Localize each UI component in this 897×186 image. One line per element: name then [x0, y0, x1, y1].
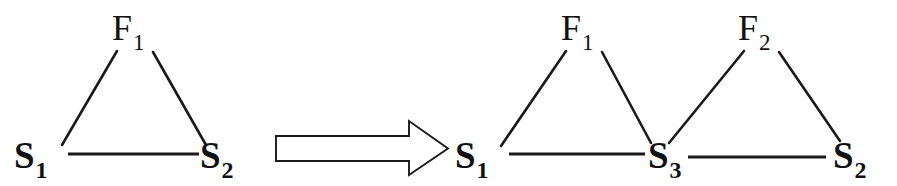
node-label-right-s1: S1: [455, 135, 489, 183]
edge-right-s3-f2: [669, 51, 744, 143]
edge-right-f1-s3: [602, 52, 651, 143]
figure-canvas: F1 S1 S2: [0, 0, 897, 186]
edge-right-f2-s2: [779, 52, 840, 141]
node-label-right-s3: S3: [648, 135, 682, 183]
arrow-right-icon: [276, 121, 448, 175]
edge-left-s1-f1: [62, 51, 117, 145]
node-label-left-f1: F1: [112, 8, 145, 55]
node-label-left-s2: S2: [200, 135, 234, 183]
left-triangle-graph: F1 S1 S2: [14, 8, 234, 183]
transform-arrow: [276, 121, 448, 175]
transformation-diagram: F1 S1 S2: [0, 0, 897, 186]
edge-left-f1-s2: [153, 52, 206, 145]
node-label-left-s1: S1: [14, 135, 48, 183]
node-label-right-s2: S2: [833, 135, 867, 183]
right-double-triangle-graph: F1 F2 S1 S3 S2: [455, 8, 867, 183]
edge-right-s1-f1: [501, 51, 566, 146]
node-label-right-f1: F1: [561, 8, 594, 55]
node-label-right-f2: F2: [738, 8, 771, 55]
